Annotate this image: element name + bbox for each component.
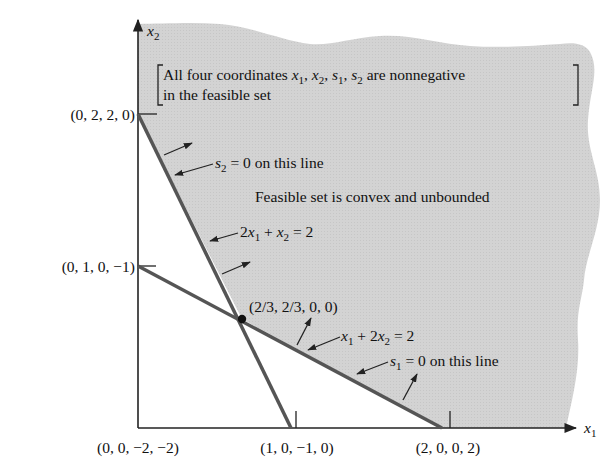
- point-label-0-1-0-neg1: (0, 1, 0, −1): [62, 258, 135, 276]
- note-line-2: in the feasible set: [163, 86, 272, 103]
- feasible-set-diagram: x2 x1 All four coordinates x1, x2, s1, s…: [0, 0, 614, 474]
- x1-axis-label: x1: [583, 419, 596, 439]
- point-label-1-0-neg1-0: (1, 0, −1, 0): [260, 439, 333, 457]
- feasible-region: [138, 23, 600, 428]
- point-label-2-0-0-2: (2, 0, 0, 2): [416, 439, 481, 457]
- convex-unbounded-statement: Feasible set is convex and unbounded: [255, 188, 490, 205]
- corner-point: [238, 315, 246, 323]
- point-label-0-2-2-0: (0, 2, 2, 0): [70, 106, 135, 124]
- point-label-origin: (0, 0, −2, −2): [97, 439, 179, 457]
- corner-point-label: (2/3, 2/3, 0, 0): [249, 298, 338, 316]
